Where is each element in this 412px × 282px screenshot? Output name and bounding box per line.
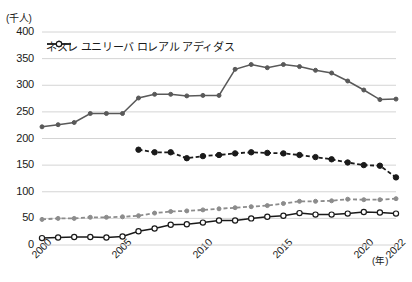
series-marker-0-12: [233, 67, 237, 71]
series-marker-3-16: [297, 211, 302, 216]
series-marker-3-1: [56, 235, 61, 240]
series-marker-0-21: [378, 98, 382, 102]
series-marker-2-8: [169, 210, 173, 214]
series-marker-0-0: [40, 125, 44, 129]
series-marker-3-7: [152, 226, 157, 231]
series-marker-2-17: [314, 199, 318, 203]
series-marker-2-0: [40, 217, 44, 221]
series-marker-0-2: [72, 121, 76, 125]
series-marker-2-9: [185, 209, 189, 213]
series-marker-3-19: [345, 211, 350, 216]
series-marker-0-10: [201, 93, 205, 97]
series-marker-0-8: [169, 92, 173, 96]
series-marker-0-3: [88, 112, 92, 116]
series-marker-2-15: [281, 202, 285, 206]
series-marker-3-3: [88, 234, 93, 239]
series-marker-0-18: [330, 71, 334, 75]
series-marker-1-13: [345, 160, 350, 165]
series-marker-1-12: [329, 157, 334, 162]
series-marker-3-18: [329, 212, 334, 217]
series-marker-2-11: [217, 207, 221, 211]
series-marker-3-14: [265, 214, 270, 219]
series-marker-1-4: [200, 153, 205, 158]
series-marker-2-1: [56, 216, 60, 220]
plot-area: [0, 0, 412, 282]
series-marker-0-13: [249, 63, 253, 67]
series-marker-2-6: [137, 214, 141, 218]
series-marker-2-18: [330, 199, 334, 203]
series-marker-0-16: [298, 65, 302, 69]
line-chart: (千人) 400350300250200150100500 2000200520…: [0, 0, 412, 282]
series-marker-0-1: [56, 123, 60, 127]
series-marker-2-3: [88, 215, 92, 219]
series-marker-3-12: [233, 218, 238, 223]
series-marker-1-16: [393, 175, 398, 180]
series-marker-2-7: [153, 211, 157, 215]
series-marker-3-21: [377, 210, 382, 215]
series-marker-0-4: [104, 112, 108, 116]
series-marker-1-9: [281, 151, 286, 156]
series-marker-1-1: [152, 150, 157, 155]
series-marker-2-12: [233, 206, 237, 210]
series-marker-0-9: [185, 94, 189, 98]
series-marker-3-10: [200, 220, 205, 225]
series-marker-3-8: [168, 222, 173, 227]
series-marker-3-6: [136, 229, 141, 234]
series-marker-2-2: [72, 216, 76, 220]
series-marker-3-22: [393, 211, 398, 216]
series-marker-1-2: [168, 150, 173, 155]
series-marker-0-17: [314, 68, 318, 72]
series-marker-0-14: [265, 66, 269, 70]
series-marker-2-14: [265, 204, 269, 208]
series-marker-1-11: [313, 154, 318, 159]
series-marker-0-6: [137, 96, 141, 100]
series-marker-3-5: [120, 234, 125, 239]
series-marker-2-21: [378, 198, 382, 202]
series-marker-0-11: [217, 93, 221, 97]
series-marker-1-10: [297, 152, 302, 157]
series-marker-1-14: [361, 162, 366, 167]
series-marker-1-6: [232, 151, 237, 156]
series-marker-3-13: [249, 216, 254, 221]
series-marker-3-17: [313, 212, 318, 217]
series-marker-3-11: [216, 218, 221, 223]
series-marker-1-15: [377, 163, 382, 168]
series-marker-1-7: [249, 150, 254, 155]
series-marker-3-20: [361, 209, 366, 214]
series-marker-0-7: [153, 92, 157, 96]
series-marker-1-5: [216, 152, 221, 157]
series-marker-1-8: [265, 150, 270, 155]
series-marker-2-19: [346, 197, 350, 201]
series-marker-1-3: [184, 156, 189, 161]
series-marker-3-2: [72, 234, 77, 239]
series-marker-3-9: [184, 222, 189, 227]
series-marker-2-13: [249, 205, 253, 209]
series-marker-0-15: [281, 63, 285, 67]
series-marker-2-20: [362, 198, 366, 202]
series-marker-0-5: [121, 112, 125, 116]
series-marker-3-15: [281, 213, 286, 218]
series-marker-2-4: [104, 215, 108, 219]
series-line-3: [42, 212, 396, 238]
series-marker-0-19: [346, 79, 350, 83]
series-marker-2-16: [298, 199, 302, 203]
series-marker-2-5: [121, 215, 125, 219]
series-marker-3-4: [104, 235, 109, 240]
series-marker-0-20: [362, 88, 366, 92]
series-marker-0-22: [394, 97, 398, 101]
series-marker-1-0: [136, 147, 141, 152]
series-marker-3-0: [39, 236, 44, 241]
series-marker-2-22: [394, 197, 398, 201]
series-marker-2-10: [201, 208, 205, 212]
